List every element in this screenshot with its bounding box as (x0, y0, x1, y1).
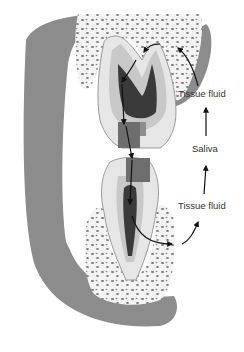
label-tissue-fluid-upper: Tissue fluid (178, 88, 226, 99)
tooth-diagram (0, 0, 244, 352)
label-tissue-fluid-lower: Tissue fluid (178, 200, 226, 211)
label-saliva: Saliva (192, 143, 218, 154)
